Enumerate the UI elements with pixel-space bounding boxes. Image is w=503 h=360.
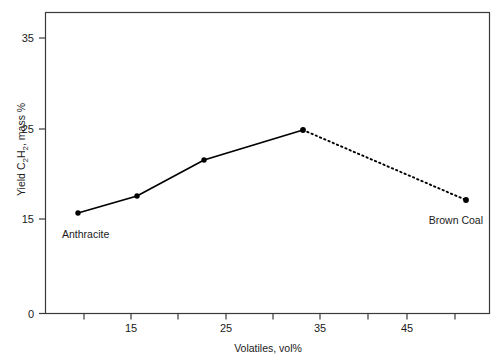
x-tick-label-15: 15 (125, 322, 137, 334)
data-point (201, 157, 206, 162)
x-tick-label-35: 35 (314, 322, 326, 334)
annotation-brown-coal: Brown Coal (429, 214, 483, 226)
chart-figure: 35 25 15 0 Yield C2H2, mass % 15 25 (0, 0, 503, 360)
y-tick-label-35: 35 (22, 32, 34, 44)
data-point (75, 210, 80, 215)
svg-text:Yield C2H2, mass %: Yield C2H2, mass % (15, 103, 30, 196)
plot-frame (46, 13, 490, 314)
data-point (134, 193, 139, 198)
x-axis-ticks (84, 314, 455, 320)
y-axis-title-tail: , mass % (15, 103, 27, 146)
x-axis-title: Volatiles, vol% (234, 342, 302, 354)
line-chart-canvas: 35 25 15 0 Yield C2H2, mass % 15 25 (0, 0, 503, 360)
y-tick-label-0: 0 (28, 308, 34, 320)
data-point (463, 197, 469, 203)
x-axis-tick-labels: 15 25 35 45 (125, 322, 413, 334)
y-axis-title-lead: Yield C (15, 162, 27, 196)
data-point (300, 127, 306, 133)
y-axis-ticks (39, 38, 46, 314)
y-axis-title-mid: H (15, 150, 27, 158)
y-tick-label-15: 15 (22, 213, 34, 225)
x-tick-label-25: 25 (220, 322, 232, 334)
x-tick-label-45: 45 (401, 322, 413, 334)
y-axis-title: Yield C2H2, mass % (15, 103, 30, 196)
annotation-anthracite: Anthracite (62, 228, 109, 240)
